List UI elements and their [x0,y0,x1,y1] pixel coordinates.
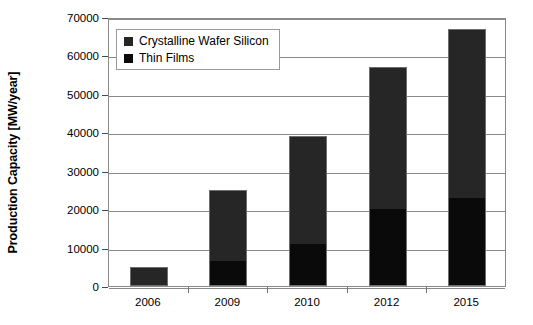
x-axis-tick-label: 2012 [347,296,427,308]
bar-segment-thin-films-2009 [209,261,247,286]
x-axis-tick-mark [267,287,268,293]
x-axis-tick-mark [347,287,348,293]
x-axis-tick-label: 2015 [426,296,506,308]
x-axis-tick-label: 2010 [267,296,347,308]
legend-label-thin-films: Thin Films [139,51,194,65]
bar-segment-thin-films-2012 [369,209,407,286]
legend-swatch-crystalline [124,37,133,46]
gridline [109,134,505,135]
y-axis-tick-mark [102,287,108,288]
y-axis-title: Production Capacity [MW/year] [0,0,26,325]
x-axis-tick-label: 2009 [187,296,267,308]
bar-segment-crystalline-2006 [130,267,168,286]
y-axis-tick-label: 10000 [29,243,99,255]
legend-swatch-thin-films [124,54,133,63]
legend-item-crystalline-wafer-silicon: Crystalline Wafer Silicon [124,34,269,48]
legend-label-crystalline: Crystalline Wafer Silicon [139,34,269,48]
bar-segment-crystalline-2012 [369,67,407,209]
y-axis-tick-label: 70000 [29,12,99,24]
x-axis-tick-mark [426,287,427,293]
y-axis-tick-label: 40000 [29,127,99,139]
bar-segment-crystalline-2009 [209,190,247,261]
gridline [109,288,505,289]
bar-segment-crystalline-2010 [289,136,327,244]
y-axis-tick-label: 30000 [29,166,99,178]
y-axis-tick-label: 0 [29,281,99,293]
bar-2010 [289,136,327,286]
gridline [109,19,505,20]
chart-legend: Crystalline Wafer Silicon Thin Films [116,29,280,70]
legend-item-thin-films: Thin Films [124,51,269,65]
chart-figure: Production Capacity [MW/year] 0100002000… [0,0,533,325]
bar-segment-crystalline-2015 [448,29,486,198]
y-axis-tick-label: 20000 [29,204,99,216]
x-axis-tick-mark [188,287,189,293]
gridline [109,96,505,97]
bar-segment-thin-films-2015 [448,198,486,286]
x-axis-tick-label: 2006 [108,296,188,308]
bar-segment-thin-films-2010 [289,244,327,286]
bar-2012 [369,67,407,286]
y-axis-tick-label: 60000 [29,50,99,62]
bar-2009 [209,190,247,286]
bar-2006 [130,267,168,286]
y-axis-tick-label: 50000 [29,89,99,101]
bar-2015 [448,29,486,286]
